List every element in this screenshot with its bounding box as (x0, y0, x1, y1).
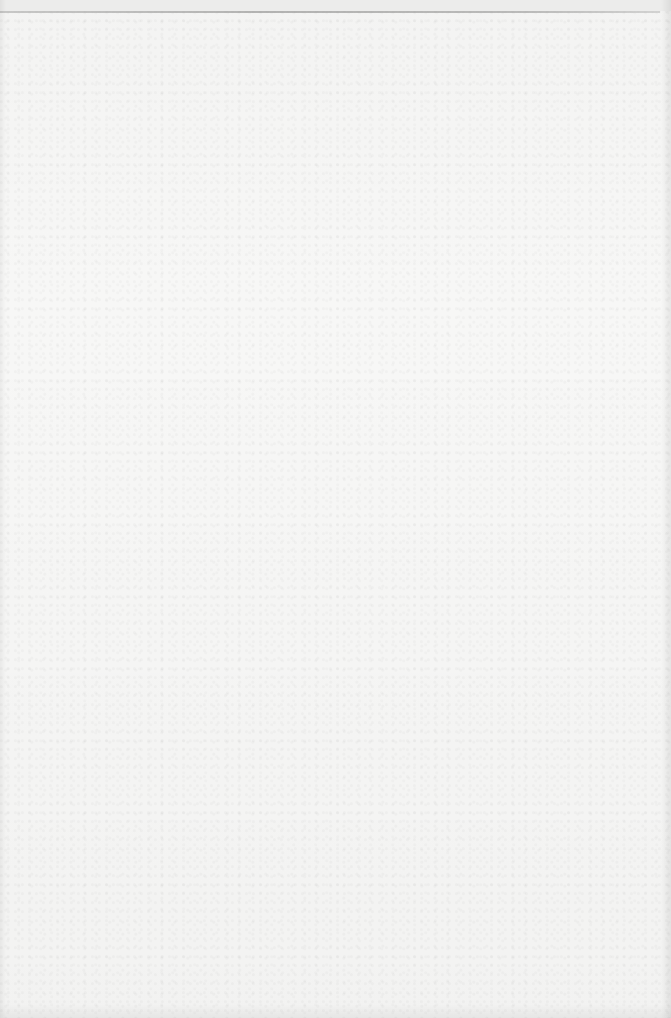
page-right-edge-shadow (661, 0, 671, 1018)
page-content (40, 40, 631, 978)
page-top-margin (0, 0, 671, 11)
blank-scanned-page (0, 0, 671, 1018)
page-bottom-edge-shadow (0, 1004, 671, 1018)
page-left-edge-shadow (0, 0, 6, 1018)
page-top-edge-line (0, 11, 660, 13)
